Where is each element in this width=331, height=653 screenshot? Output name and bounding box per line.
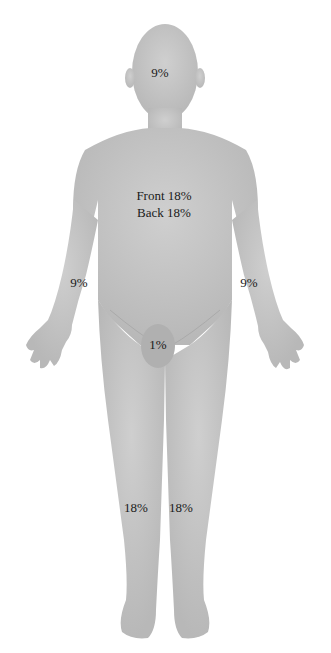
torso-back-label: Back 18% — [137, 205, 191, 221]
left-leg — [165, 300, 232, 638]
body-diagram — [0, 0, 331, 653]
right-leg-label: 18% — [124, 500, 148, 516]
right-arm-label: 9% — [70, 275, 87, 291]
genitals-label: 1% — [149, 337, 166, 353]
left-leg-label: 18% — [169, 500, 193, 516]
torso-front-label: Front 18% — [136, 188, 191, 204]
left-arm-label: 9% — [240, 275, 257, 291]
head-label: 9% — [151, 65, 168, 81]
